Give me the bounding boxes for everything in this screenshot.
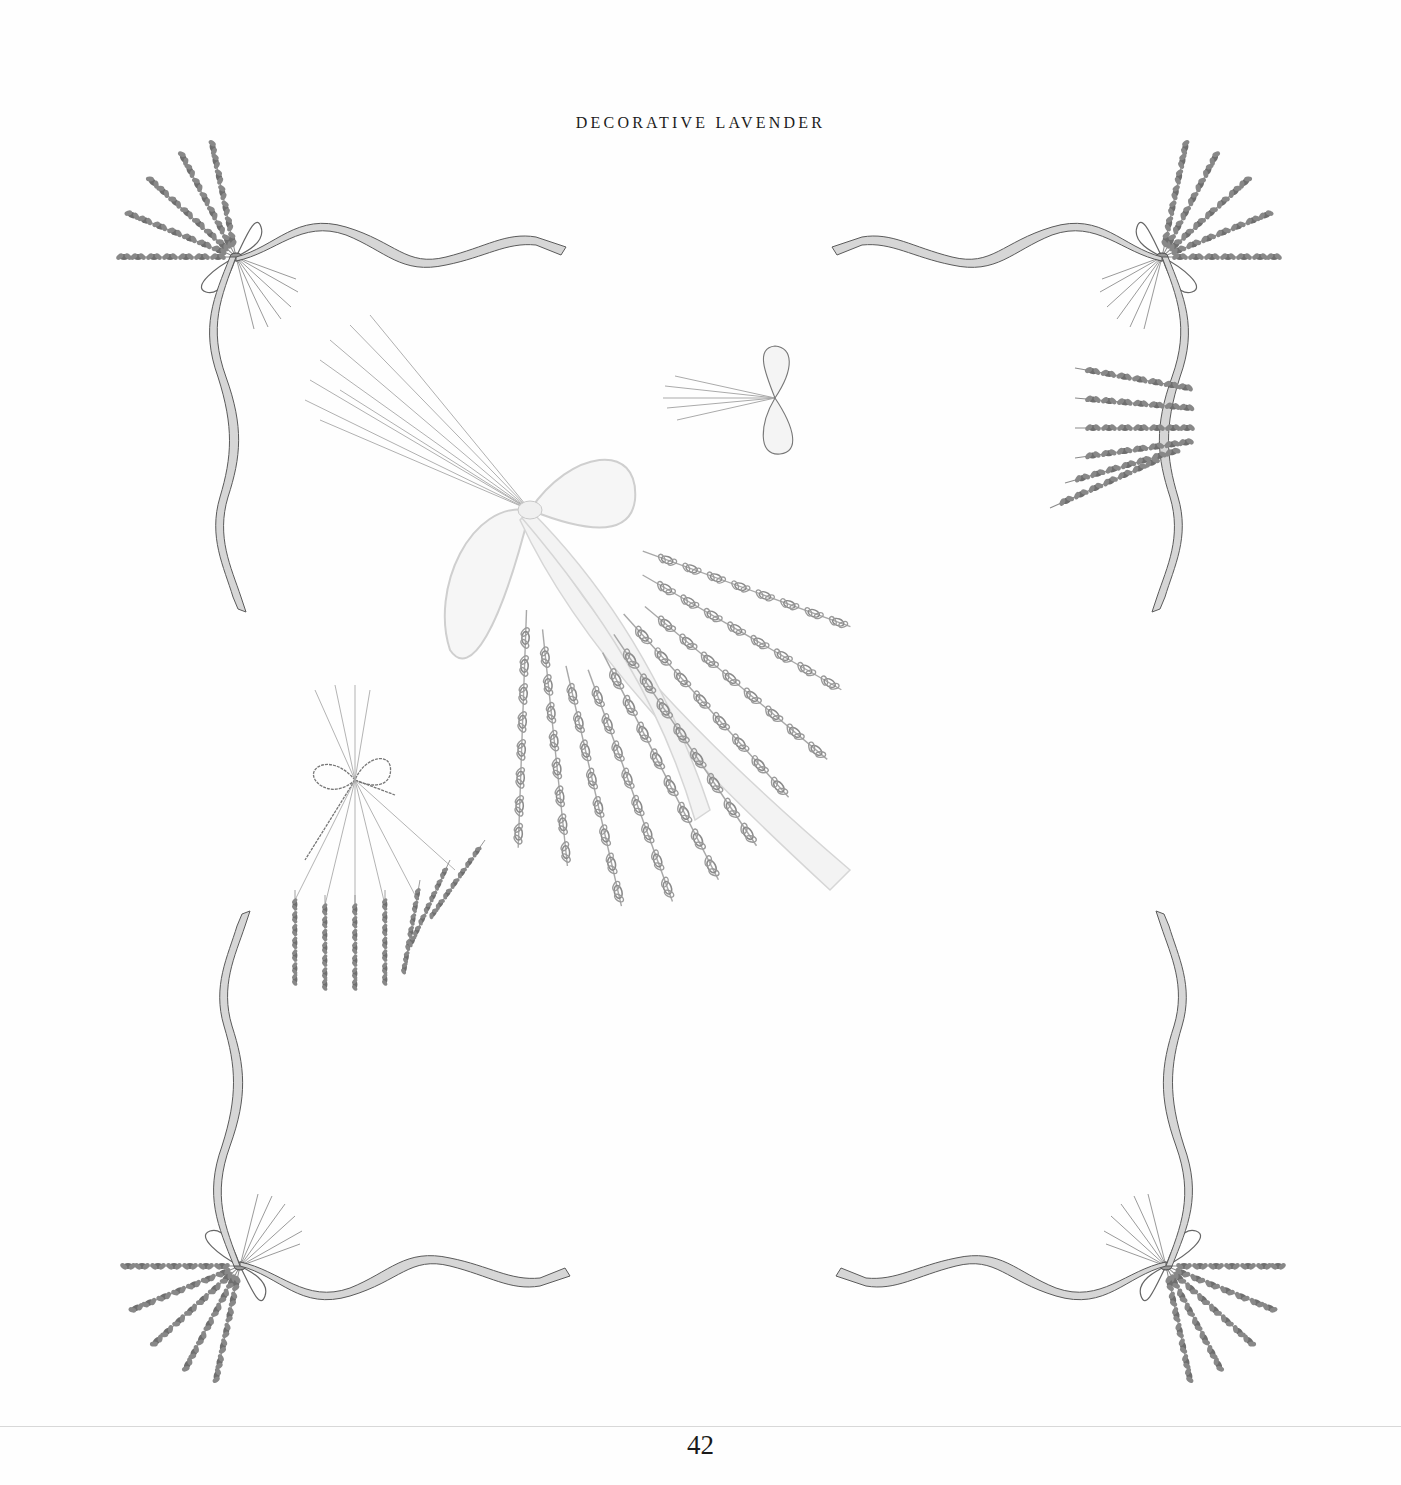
page-number: 42: [0, 1430, 1401, 1461]
lavender-illustration: [0, 0, 1401, 1485]
footer-rule: [0, 1426, 1401, 1427]
corner-spray-bottom-right: [836, 911, 1287, 1385]
book-page: DECORATIVE LAVENDER: [0, 0, 1401, 1485]
corner-spray-top-right: [832, 138, 1283, 612]
large-bundle-center: [305, 315, 852, 907]
corner-spray-bottom-left: [119, 911, 570, 1385]
small-bundle-upper-right: [663, 346, 1196, 512]
small-bundle-left: [291, 685, 488, 992]
